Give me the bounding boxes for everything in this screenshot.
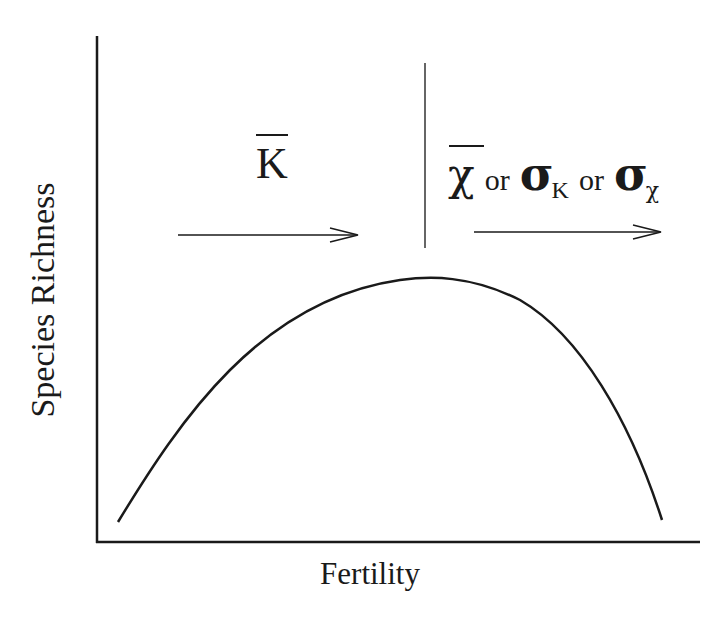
sigma-chi-symbol: σ χ bbox=[614, 151, 659, 197]
chi-bar-symbol: χ bbox=[448, 153, 475, 197]
or-text-2: or bbox=[579, 163, 604, 197]
k-bar-annotation: K bbox=[256, 138, 288, 189]
sigma-k-symbol: σ K bbox=[520, 151, 569, 197]
right-annotation: χ or σ K or σ χ bbox=[448, 151, 659, 197]
chart-canvas bbox=[0, 0, 723, 627]
overbar bbox=[256, 134, 288, 136]
k-symbol: K bbox=[256, 139, 288, 188]
y-axis-label: Species Richness bbox=[24, 182, 62, 417]
or-text-1: or bbox=[485, 163, 510, 197]
overbar bbox=[449, 145, 484, 147]
richness-curve bbox=[118, 278, 662, 522]
x-axis-label: Fertility bbox=[320, 556, 420, 592]
right-arrow-icon bbox=[474, 225, 661, 239]
left-arrow-icon bbox=[178, 228, 358, 242]
